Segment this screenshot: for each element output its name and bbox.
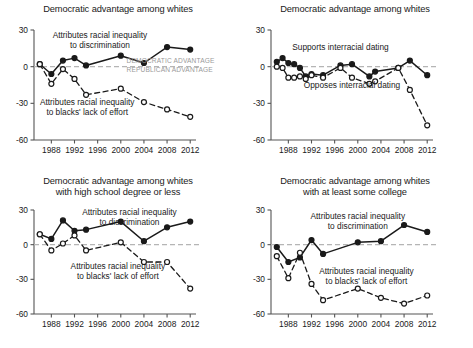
data-point-marker (425, 123, 430, 128)
data-point-marker (355, 286, 360, 291)
data-point-marker (84, 63, 89, 68)
y-tick-label: -30 (16, 98, 28, 108)
data-point-marker (188, 47, 193, 52)
data-point-marker (321, 298, 326, 303)
series-annotation-label: Attributes racial inequalityto blacks' l… (319, 266, 414, 286)
advantage-side-label: DEMOCRATIC ADVANTAGE (127, 57, 215, 64)
data-point-marker (141, 239, 146, 244)
x-tick-label: 2012 (181, 145, 200, 155)
x-tick-label: 1996 (325, 319, 344, 329)
series-annotation-label: Attributes racial inequalityto blacks' l… (40, 97, 135, 117)
series-annotation-label: Attributes racial inequalityto discrimin… (82, 207, 177, 227)
data-point-marker (396, 65, 401, 70)
data-point-marker (402, 223, 407, 228)
data-point-marker (309, 238, 314, 243)
y-tick-label: 30 (256, 25, 266, 35)
x-tick-label: 1988 (42, 319, 61, 329)
x-tick-label: 1988 (42, 145, 61, 155)
data-point-marker (378, 295, 383, 300)
data-point-marker (72, 56, 77, 61)
series-annotation-label: Attributes racial inequalityto discrimin… (53, 30, 148, 50)
data-point-marker (60, 58, 65, 63)
series-annotation-label: Attributes racial inequalityto discrimin… (311, 211, 406, 231)
chart-panel-top-left: Democratic advantage among whites 300-30… (0, 0, 236, 174)
series-annotation-label: Opposes interracial dating (304, 80, 401, 90)
data-point-marker (165, 225, 170, 230)
data-point-marker (297, 74, 302, 79)
data-point-marker (297, 250, 302, 255)
x-tick-label: 2000 (348, 319, 367, 329)
data-point-marker (350, 62, 355, 67)
data-point-marker (118, 86, 123, 91)
y-tick-label: 0 (260, 240, 265, 250)
data-point-marker (49, 236, 54, 241)
x-tick-label: 2004 (135, 319, 154, 329)
x-tick-label: 1996 (325, 145, 344, 155)
y-tick-label: -30 (16, 274, 28, 284)
data-point-marker (37, 232, 42, 237)
data-point-marker (141, 100, 146, 105)
data-point-marker (286, 276, 291, 281)
data-point-marker (286, 75, 291, 80)
y-tick-label: -60 (16, 309, 28, 319)
x-tick-label: 2004 (135, 145, 154, 155)
data-point-marker (378, 239, 383, 244)
data-point-marker (165, 45, 170, 50)
data-point-marker (425, 293, 430, 298)
y-tick-label: -60 (253, 135, 265, 145)
plot-area-top-right: 300-30-601988199219962000200420082012Sup… (237, 0, 473, 174)
data-point-marker (321, 251, 326, 256)
data-point-marker (72, 233, 77, 238)
data-point-marker (49, 248, 54, 253)
data-point-marker (118, 53, 123, 58)
y-tick-label: 0 (23, 240, 28, 250)
chart-panel-top-right: Democratic advantage among whites 300-30… (237, 0, 473, 174)
series-annotation-label: Supports interracial dating (292, 42, 389, 52)
y-tick-label: 30 (19, 25, 29, 35)
data-point-marker (274, 244, 279, 249)
x-tick-label: 2008 (158, 145, 177, 155)
data-point-marker (286, 260, 291, 265)
data-point-marker (60, 67, 65, 72)
data-point-marker (165, 260, 170, 265)
data-point-marker (118, 240, 123, 245)
data-point-marker (309, 73, 314, 78)
x-tick-label: 1996 (88, 319, 107, 329)
y-tick-label: -60 (16, 135, 28, 145)
data-point-marker (338, 65, 343, 70)
plot-area-top-left: 300-30-601988199219962000200420082012Att… (0, 0, 236, 174)
data-point-marker (355, 240, 360, 245)
data-point-marker (297, 65, 302, 70)
data-point-marker (165, 107, 170, 112)
x-tick-label: 2012 (181, 319, 200, 329)
data-point-marker (407, 87, 412, 92)
chart-panel-bottom-right: Democratic advantage among whites with a… (237, 174, 473, 348)
data-point-marker (402, 301, 407, 306)
x-tick-label: 2000 (111, 319, 130, 329)
data-point-marker (280, 56, 285, 61)
y-tick-label: 0 (260, 62, 265, 72)
series-annotation-label: Attributes racial inequalityto blacks' l… (71, 261, 166, 281)
data-point-marker (188, 219, 193, 224)
x-tick-label: 2000 (348, 145, 367, 155)
x-tick-label: 1996 (88, 145, 107, 155)
advantage-side-label: REPUBLICAN ADVANTAGE (127, 66, 214, 73)
x-tick-label: 2004 (372, 145, 391, 155)
x-tick-label: 1988 (279, 145, 298, 155)
x-tick-label: 1992 (302, 319, 321, 329)
data-point-marker (425, 229, 430, 234)
x-tick-label: 2012 (418, 145, 437, 155)
x-tick-label: 1992 (302, 145, 321, 155)
y-tick-label: -30 (253, 274, 265, 284)
data-point-marker (60, 218, 65, 223)
four-panel-line-chart-figure: Democratic advantage among whites 300-30… (0, 0, 473, 348)
plot-area-bottom-right: 300-30-601988199219962000200420082012Att… (237, 174, 473, 348)
x-tick-label: 1992 (65, 145, 84, 155)
x-tick-label: 2008 (395, 319, 414, 329)
data-point-marker (72, 76, 77, 81)
x-tick-label: 2000 (111, 145, 130, 155)
data-point-marker (292, 62, 297, 67)
data-point-marker (188, 114, 193, 119)
x-tick-label: 1988 (279, 319, 298, 329)
plot-area-bottom-left: 300-30-601988199219962000200420082012Att… (0, 174, 236, 348)
